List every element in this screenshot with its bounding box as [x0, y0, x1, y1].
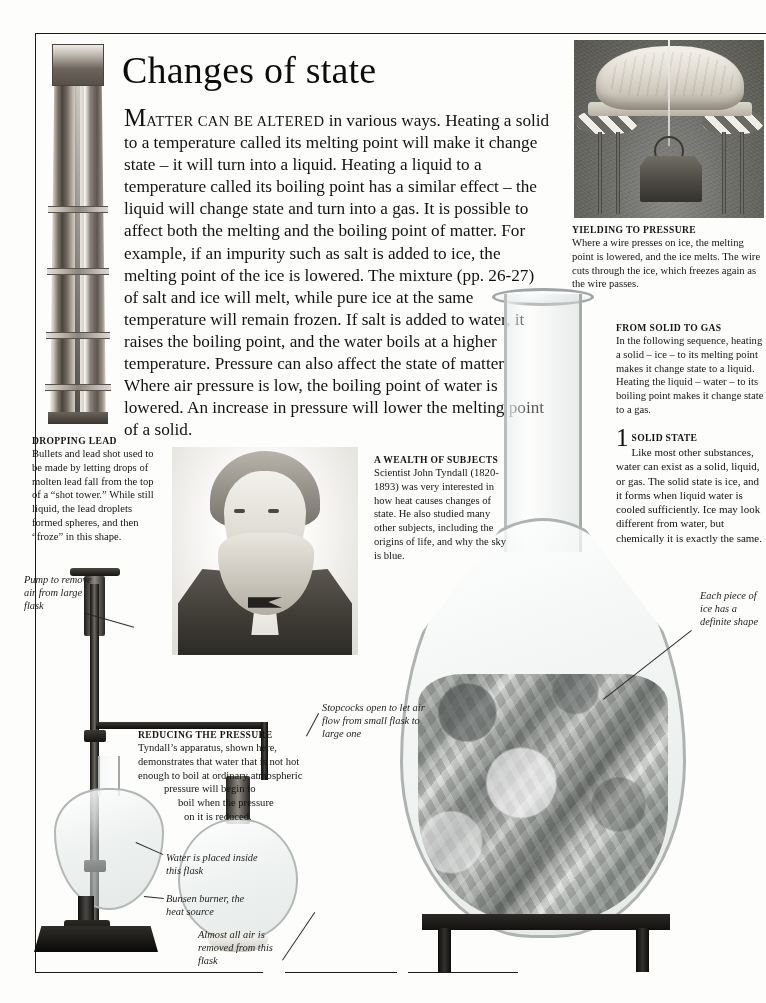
caption-line: at ordinary atmospheric — [202, 770, 303, 781]
document-page: Changes of state MATTER CAN BE ALTERED i… — [0, 0, 766, 1003]
caption-yielding-to-pressure: YIELDING TO PRESSURE Where a wire presse… — [572, 224, 762, 291]
wire — [668, 40, 670, 146]
shot-tower-cap — [52, 44, 104, 86]
caption-body: Scientist John Tyndall (1820-1893) was v… — [374, 466, 514, 562]
shot-tower-band — [45, 384, 111, 391]
caption-reducing-the-pressure: REDUCING THE PRESSURE Tyndall’s apparatu… — [138, 729, 306, 824]
frame-rule-bottom-2 — [285, 972, 397, 973]
connecting-tube-horizontal — [96, 722, 268, 729]
crushed-ice — [418, 674, 668, 924]
table-leg — [616, 132, 620, 214]
annotation-pump: Pump to remove air from large flask — [24, 573, 94, 612]
caption-line: pressure will begin to — [138, 782, 306, 796]
caption-a-wealth-of-subjects: A WEALTH OF SUBJECTS Scientist John Tynd… — [374, 454, 514, 562]
annotation-water-placed: Water is placed inside this flask — [166, 851, 270, 877]
caption-body: Tyndall’s apparatus, shown here, demonst… — [138, 741, 306, 824]
intro-smallcaps: ATTER CAN BE ALTERED — [146, 113, 324, 129]
shot-tower-illustration — [42, 36, 114, 426]
stand-base-plate — [34, 926, 158, 952]
caption-line: Tyndall’s apparatus, shown — [138, 742, 253, 753]
wire-through-ice-photograph — [574, 40, 764, 218]
stand-clamp — [84, 730, 106, 742]
shot-tower-band — [48, 206, 108, 213]
shot-tower-base — [48, 412, 108, 424]
annotation-stopcocks: Stopcocks open to let air flow from smal… — [322, 701, 426, 740]
table-leg — [740, 132, 744, 214]
table-leg — [722, 132, 726, 214]
frame-rule-top — [35, 33, 766, 34]
caption-heading: REDUCING THE PRESSURE — [138, 729, 306, 740]
caption-dropping-lead: DROPPING LEAD Bullets and lead shot used… — [32, 435, 160, 543]
portrait-eye — [268, 509, 279, 513]
caption-heading: DROPPING LEAD — [32, 435, 160, 446]
caption-line: on it is reduced. — [138, 810, 306, 824]
shot-tower-band — [47, 268, 109, 275]
page-title: Changes of state — [122, 48, 376, 92]
flask-stand-leg — [438, 928, 451, 972]
small-flask — [178, 818, 298, 942]
frame-rule-bottom — [35, 972, 263, 973]
hanging-weight — [640, 156, 702, 202]
intro-dropcap: M — [124, 104, 146, 131]
shot-tower-shaft — [75, 84, 80, 414]
caption-line: boil when the pressure — [138, 796, 306, 810]
shot-tower-band — [46, 332, 110, 339]
caption-heading: YIELDING TO PRESSURE — [572, 224, 762, 235]
portrait-eye — [234, 509, 245, 513]
table-leg — [598, 132, 602, 214]
ice-block — [596, 46, 744, 110]
annotation-almost-all-air: Almost all air is removed from this flas… — [198, 928, 278, 967]
flask-neck — [504, 294, 582, 552]
frame-rule-bottom-3 — [408, 972, 518, 973]
annotation-each-piece-of-ice: Each piece of ice has a definite shape — [700, 589, 766, 628]
caption-body: Bullets and lead shot used to be made by… — [32, 447, 160, 543]
flask-of-ice-photograph — [392, 282, 692, 972]
annotation-bunsen-burner: Bunsen burner, the heat source — [166, 892, 258, 918]
flask-stand-leg — [636, 928, 649, 972]
flask-stand-top — [422, 914, 670, 930]
caption-heading: A WEALTH OF SUBJECTS — [374, 454, 514, 465]
